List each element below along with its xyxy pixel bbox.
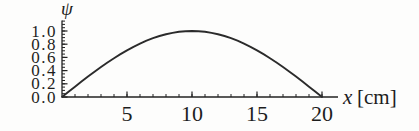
x-axis-tick-label: 10 <box>181 101 203 126</box>
y-axis-title: ψ <box>61 0 74 19</box>
x-axis-title-unit: [cm] <box>357 85 397 109</box>
x-axis-tick-label: 20 <box>311 101 333 126</box>
y-axis-tick-label: 1.0 <box>31 22 57 41</box>
psi-curve <box>62 31 322 97</box>
x-axis-title-variable: x <box>342 85 353 109</box>
wavefunction-figure: 51015200.00.20.40.60.81.0ψx[cm] <box>0 0 419 131</box>
x-axis-tick-label: 15 <box>246 101 268 126</box>
wavefunction-plot: 51015200.00.20.40.60.81.0ψx[cm] <box>0 0 419 131</box>
x-axis-tick-label: 5 <box>122 101 133 126</box>
